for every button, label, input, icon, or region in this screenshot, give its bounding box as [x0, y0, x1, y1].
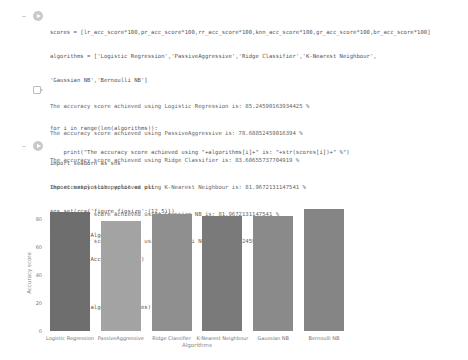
- code-line: 'Gaussian NB','Bernoulli NB']: [50, 76, 431, 84]
- code-line: import matplotlib.pyplot as plt: [50, 183, 175, 191]
- y-tick-label: 20: [30, 300, 42, 306]
- x-axis-label: Algorithms: [182, 342, 212, 348]
- output-line: The accuracy score achieved using Logist…: [50, 102, 309, 111]
- cell-collapse-marker[interactable]: [22, 146, 26, 147]
- output-line: The accuracy score achieved using Passiv…: [50, 129, 309, 138]
- y-tick-label: 80: [30, 216, 42, 222]
- run-cell-button[interactable]: [33, 11, 43, 21]
- code-line: algorithms = ['Logistic Regression','Pas…: [50, 52, 431, 60]
- y-tick-label: 60: [30, 244, 42, 250]
- bar: [101, 221, 141, 331]
- y-tick-label: 0: [30, 328, 42, 334]
- bar-chart: Accuracy score 020406080 Logistic Regres…: [0, 200, 468, 360]
- code-line: scores = [lr_acc_score*100,pr_acc_score*…: [50, 28, 431, 36]
- code-line: import seaborn as sns: [50, 159, 175, 167]
- bar: [202, 216, 242, 331]
- bar: [50, 212, 90, 331]
- bar: [253, 216, 293, 331]
- bar: [304, 209, 344, 331]
- output-toggle-icon[interactable]: [33, 86, 41, 94]
- cell-collapse-marker[interactable]: [22, 16, 26, 17]
- x-tick-label: Bernoulli NB: [294, 335, 354, 341]
- code-cell-2[interactable]: import seaborn as sns import matplotlib.…: [0, 138, 468, 198]
- run-cell-button[interactable]: [33, 141, 43, 151]
- bar: [152, 214, 192, 331]
- code-cell-1[interactable]: scores = [lr_acc_score*100,pr_acc_score*…: [0, 0, 468, 80]
- y-tick-label: 40: [30, 272, 42, 278]
